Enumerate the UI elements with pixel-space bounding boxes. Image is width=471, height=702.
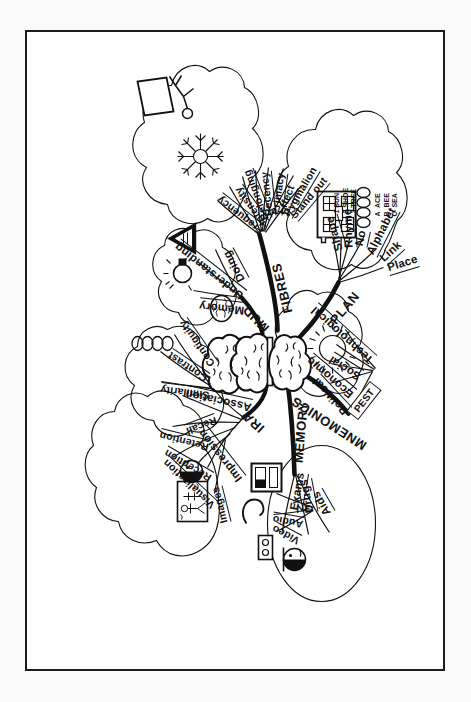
- page-frame: IRA MUD FIBRES MEMORY MNEMONICS PLAN Imp…: [25, 30, 445, 671]
- mindmap-canvas: IRA MUD FIBRES MEMORY MNEMONICS PLAN Imp…: [26, 30, 445, 671]
- mindmap-rotor: IRA MUD FIBRES MEMORY MNEMONICS PLAN Imp…: [26, 30, 445, 671]
- alphabet-notes: A ACE B BEE C SEA: [374, 193, 400, 216]
- page-background: IRA MUD FIBRES MEMORY MNEMONICS PLAN Imp…: [0, 0, 471, 702]
- number-notes: 1 SUN 2 SHOE 3 TREE: [333, 187, 359, 213]
- mindmap-lines: [26, 30, 445, 671]
